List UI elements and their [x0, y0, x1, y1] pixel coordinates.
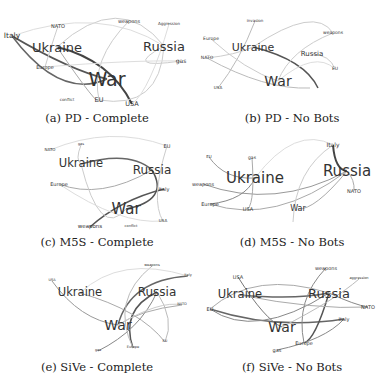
node-label-eu: EU [206, 155, 211, 159]
node-label-russia: Russia [308, 287, 350, 300]
node-label-russia: Russia [323, 164, 371, 179]
node-label-europe: Europe [36, 65, 54, 70]
node-label-conflict: conflict [125, 225, 138, 229]
node-label-aggression: Aggression [158, 22, 180, 26]
network-edge [132, 24, 169, 104]
node-label-weapons: weapons [323, 31, 343, 36]
network-edge [125, 266, 152, 348]
panel-e: weaponsUSAItalyUkraineRussiaNATOWarEUgas… [0, 260, 194, 389]
node-label-conflict: conflict [60, 98, 75, 102]
node-label-russia: Russia [143, 40, 185, 53]
node-label-italy: Italy [184, 274, 192, 278]
node-label-war: War [268, 320, 295, 334]
network-edge [157, 146, 167, 221]
panel-caption: (d) M5S - No Bots [195, 235, 389, 249]
node-label-weapons: weapons [78, 224, 102, 230]
node-label-war: War [290, 205, 306, 213]
panel-caption: (c) M5S - Complete [0, 235, 194, 249]
node-label-ukraine: Ukraine [59, 158, 103, 170]
panel-b: invasionweaponsEuropeUkraineRussiaNATOEU… [195, 0, 389, 130]
network-edge [50, 136, 167, 150]
node-label-weapons: weapons [118, 19, 140, 24]
panel-a: ItalyNATOweaponsAggressionUkraineRussiag… [0, 0, 194, 130]
node-label-gas: gas [78, 143, 84, 147]
node-label-russia: Russia [301, 51, 324, 58]
node-label-war: War [104, 318, 131, 332]
node-label-weapons: weapons [315, 266, 337, 271]
node-label-usa: USA [159, 219, 167, 223]
node-label-gas: gas [176, 58, 187, 64]
node-label-usa: USA [125, 101, 138, 108]
node-label-war: War [264, 74, 291, 88]
node-label-ukraine: Ukraine [58, 287, 102, 299]
node-label-war: War [88, 70, 125, 89]
node-label-europe: Europe [127, 346, 139, 350]
node-label-ukraine: Ukraine [32, 41, 82, 54]
node-label-nato: NATO [44, 148, 55, 152]
panel-caption: (b) PD - No Bots [195, 111, 389, 125]
node-label-italy: Italy [326, 142, 339, 148]
node-label-europe: Europe [295, 341, 313, 346]
node-label-invasion: invasion [247, 19, 264, 23]
node-label-ukraine: Ukraine [218, 289, 262, 301]
node-label-weapons: weapons [144, 264, 160, 268]
node-label-europe: Europe [201, 202, 219, 207]
node-label-gas: gas [248, 156, 256, 161]
node-label-war: War [111, 202, 140, 217]
node-label-eu: EU [164, 144, 171, 149]
panel-caption: (a) PD - Complete [0, 111, 194, 125]
network-edges [0, 0, 194, 110]
node-label-nato: NATO [201, 56, 213, 61]
node-label-usa: USA [233, 275, 243, 280]
node-label-usa: USA [243, 207, 253, 212]
node-label-ukraine: Ukraine [232, 42, 274, 53]
node-label-eu: EU [95, 97, 104, 104]
network-edges [195, 0, 389, 110]
node-label-ukraine: Ukraine [226, 171, 284, 186]
node-label-usa: USA [48, 279, 55, 283]
node-label-nato: NATO [361, 305, 375, 310]
node-label-eu: EU [207, 307, 214, 312]
panel-caption: (e) SiVe - Complete [0, 360, 194, 374]
panel-d: ItalyEUgasUkraineRussiaweaponsNATOEurope… [195, 130, 389, 260]
node-label-weapons: weapons [192, 182, 214, 187]
node-label-eu: EU [163, 340, 168, 344]
node-label-italy: Italy [4, 32, 20, 40]
node-label-europe: Europe [50, 182, 68, 187]
node-label-nato: NATO [347, 189, 361, 194]
network-edges [0, 260, 194, 370]
node-label-usa: USA [214, 86, 222, 90]
panel-c: NATOgasEUUkraineRussiaEuropeItalyWarUSAw… [0, 130, 194, 260]
node-label-nato: NATO [51, 24, 65, 29]
node-label-russia: Russia [133, 164, 172, 176]
node-label-aggression: aggression [349, 277, 368, 281]
node-label-gas: gas [95, 349, 101, 353]
node-label-russia: Russia [138, 286, 177, 298]
node-label-italy: Italy [159, 187, 170, 192]
network-edges [195, 130, 389, 240]
panel-caption: (f) SiVe - No Bots [195, 360, 389, 374]
node-label-gas: gas [273, 348, 282, 353]
panel-f: weaponsUSAaggressionUkraineRussiaEUNATOI… [195, 260, 389, 389]
node-label-europe: Europe [203, 37, 219, 42]
node-label-italy: Italy [339, 317, 350, 322]
node-label-eu: EU [332, 67, 338, 72]
node-label-nato: NATO [177, 303, 187, 307]
